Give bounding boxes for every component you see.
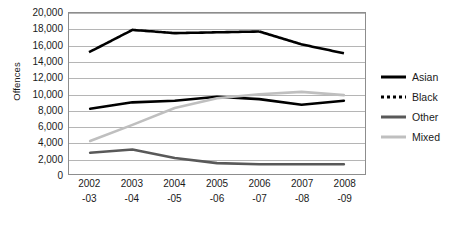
legend-label: Mixed: [412, 131, 440, 143]
x-tick-label-line: -08: [291, 192, 313, 207]
legend-swatch-asian: [381, 71, 406, 83]
y-tick-label: 14,000: [32, 55, 63, 66]
x-tick-label-line: 2006: [248, 177, 270, 192]
y-tick-label: 6,000: [38, 121, 63, 132]
legend-swatch-mixed: [381, 131, 406, 143]
x-tick-label: 2007-08: [291, 177, 313, 206]
y-tick-label: 2,000: [38, 153, 63, 164]
y-tick-label: 10,000: [32, 88, 63, 99]
x-tick-label: 2002-03: [78, 177, 100, 206]
series-line-other: [90, 149, 344, 164]
legend-swatch-black: [381, 91, 406, 103]
series-lines: [69, 13, 365, 174]
x-tick-label-line: -03: [78, 192, 100, 207]
x-tick-label-line: 2004: [163, 177, 185, 192]
x-tick-label: 2003-04: [121, 177, 143, 206]
x-tick-label-line: 2005: [206, 177, 228, 192]
series-line-black: [90, 30, 344, 53]
legend-label: Asian: [412, 71, 438, 83]
x-tick-label: 2004-05: [163, 177, 185, 206]
y-tick-label: 12,000: [32, 72, 63, 83]
legend-item-asian[interactable]: Asian: [381, 67, 452, 87]
x-tick-label: 2006-07: [248, 177, 270, 206]
chart-figure: Offences 02,0004,0006,0008,00010,00012,0…: [0, 0, 452, 226]
x-tick-label-line: -05: [163, 192, 185, 207]
x-tick-label-line: 2007: [291, 177, 313, 192]
x-tick-label-line: -06: [206, 192, 228, 207]
legend-item-other[interactable]: Other: [381, 107, 452, 127]
y-tick-label: 4,000: [38, 137, 63, 148]
x-tick-label-line: 2008: [334, 177, 356, 192]
y-tick-label: 20,000: [32, 7, 63, 18]
y-tick-label: 18,000: [32, 23, 63, 34]
legend-item-mixed[interactable]: Mixed: [381, 127, 452, 147]
y-axis-tick-labels: 02,0004,0006,0008,00010,00012,00014,0001…: [0, 0, 66, 226]
x-tick-label: 2008-09: [334, 177, 356, 206]
x-tick-label-line: 2003: [121, 177, 143, 192]
x-tick-label-line: -04: [121, 192, 143, 207]
legend-label: Black: [412, 91, 438, 103]
y-tick-label: 8,000: [38, 104, 63, 115]
x-tick-label-line: -07: [248, 192, 270, 207]
plot-area: [68, 12, 366, 175]
y-tick-label: 16,000: [32, 39, 63, 50]
series-line-mixed: [90, 92, 344, 141]
legend-swatch-other: [381, 111, 406, 123]
legend-label: Other: [412, 111, 438, 123]
x-tick-label-line: 2002: [78, 177, 100, 192]
y-tick-label: 0: [57, 170, 63, 181]
x-tick-label-line: -09: [334, 192, 356, 207]
x-tick-label: 2005-06: [206, 177, 228, 206]
chart-legend: AsianBlackOtherMixed: [381, 67, 452, 147]
x-axis-tick-labels: 2002-032003-042004-052005-062006-072007-…: [68, 177, 366, 223]
legend-item-black[interactable]: Black: [381, 87, 452, 107]
